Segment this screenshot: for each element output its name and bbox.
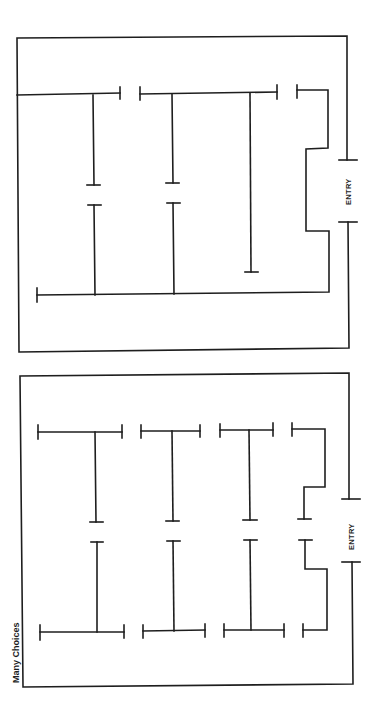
top-panel-outer-wall <box>17 36 349 352</box>
bottom-panel <box>20 373 360 687</box>
bottom-t-stem <box>173 541 174 631</box>
bottom-jogged-wall-upper <box>292 429 325 519</box>
bottom-t-stem <box>250 540 251 630</box>
bottom-t-stem <box>249 430 250 520</box>
top-wall-segment <box>17 93 120 95</box>
bottom-jogged-wall-lower <box>303 540 327 630</box>
top-stem <box>94 205 95 295</box>
bottom-t-stem <box>95 432 96 522</box>
bottom-entry-label: ENTRY <box>347 523 356 550</box>
top-stem-long <box>250 93 251 272</box>
top-entry-label: ENTRY <box>344 178 353 205</box>
top-jogged-wall <box>37 90 329 295</box>
top-panel-maze <box>0 0 382 710</box>
top-stem <box>172 94 173 183</box>
top-wall-segment <box>140 92 277 94</box>
top-panel <box>17 36 357 352</box>
panel-title: Many Choices <box>11 622 21 683</box>
bottom-t-bar <box>143 630 205 631</box>
bottom-panel-outer-wall <box>20 373 353 687</box>
top-stem <box>173 203 174 294</box>
bottom-t-stem <box>172 431 173 521</box>
top-stem <box>93 95 94 185</box>
